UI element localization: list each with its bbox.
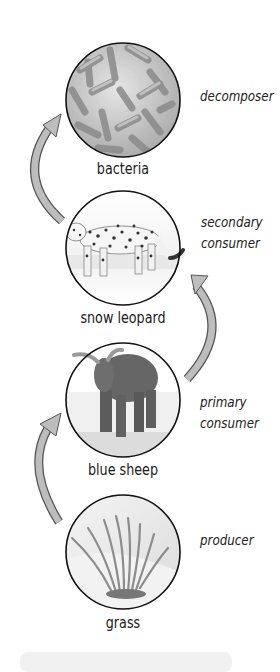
role-label-secondary-consumer: secondary consumer [201,212,263,254]
organism-label-snow-leopard: snow leopard [64,309,183,327]
arrow-sheep-to-leopard [187,275,212,379]
role-text-line1: secondary [201,212,263,233]
role-text-line1: primary [200,392,259,413]
role-label-decomposer: decomposer [200,86,274,107]
organism-label-grass: grass [64,614,183,632]
role-label-primary-consumer: primary consumer [200,392,259,434]
bacteria-image [66,43,180,157]
role-text: decomposer [200,88,274,104]
arrow-leopard-to-bacteria [35,114,62,221]
grass-image [66,495,186,610]
role-text-line2: consumer [200,413,259,434]
blue-sheep-image [66,343,186,462]
arrow-grass-to-sheep [38,412,62,522]
bottom-caption-box [20,652,232,672]
role-text-line2: consumer [201,233,263,254]
organism-label-bacteria: bacteria [64,160,183,178]
snow-leopard-image [66,191,186,305]
role-label-producer: producer [200,530,254,551]
role-text: producer [200,532,254,548]
organism-label-blue-sheep: blue sheep [64,461,183,479]
